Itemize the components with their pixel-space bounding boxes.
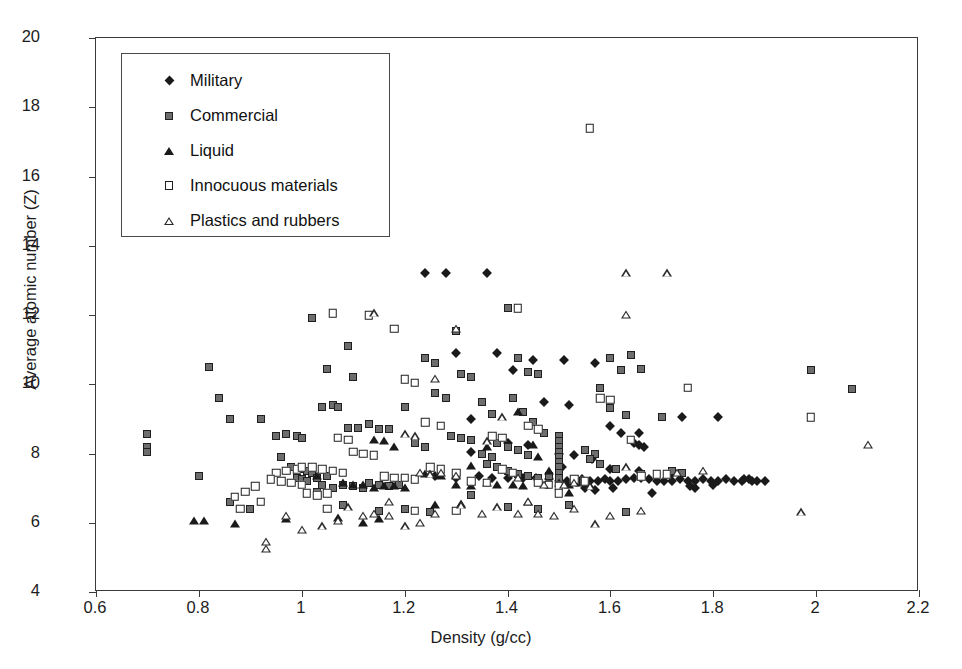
data-point-commercial bbox=[514, 446, 522, 454]
data-point-innocuous-materials bbox=[303, 489, 312, 498]
legend-item-label: Commercial bbox=[190, 106, 278, 125]
legend-item-liquid[interactable]: Liquid bbox=[122, 133, 389, 168]
x-tick-label: 1 bbox=[271, 598, 331, 617]
data-point-military bbox=[677, 412, 687, 422]
data-point-commercial bbox=[323, 365, 331, 373]
data-point-commercial bbox=[586, 455, 594, 463]
data-point-commercial bbox=[385, 425, 393, 433]
data-point-commercial bbox=[272, 432, 280, 440]
data-point-innocuous-materials bbox=[637, 472, 646, 481]
data-point-plastics-and-rubbers bbox=[451, 472, 461, 480]
data-point-plastics-and-rubbers bbox=[430, 375, 440, 383]
data-point-commercial bbox=[504, 443, 512, 451]
x-tick bbox=[96, 590, 97, 597]
data-point-military bbox=[590, 359, 600, 369]
data-point-commercial bbox=[637, 365, 645, 373]
data-point-plastics-and-rubbers bbox=[436, 468, 446, 476]
data-point-liquid bbox=[430, 501, 440, 509]
data-point-commercial bbox=[524, 368, 532, 376]
x-tick-label: 2 bbox=[785, 598, 845, 617]
data-point-plastics-and-rubbers bbox=[497, 413, 507, 421]
data-point-liquid bbox=[564, 489, 574, 497]
legend-item-plastics-and-rubbers[interactable]: Plastics and rubbers bbox=[122, 203, 389, 238]
data-point-commercial bbox=[246, 505, 254, 513]
data-point-innocuous-materials bbox=[606, 396, 615, 405]
data-point-liquid bbox=[369, 484, 379, 492]
data-point-commercial bbox=[226, 415, 234, 423]
data-point-military bbox=[482, 268, 492, 278]
data-point-plastics-and-rubbers bbox=[317, 522, 327, 530]
data-point-plastics-and-rubbers bbox=[430, 510, 440, 518]
data-point-liquid bbox=[189, 517, 199, 525]
data-point-innocuous-materials bbox=[318, 465, 327, 474]
data-point-plastics-and-rubbers bbox=[621, 311, 631, 319]
data-point-commercial bbox=[298, 434, 306, 442]
data-point-plastics-and-rubbers bbox=[605, 511, 615, 519]
data-point-innocuous-materials bbox=[298, 463, 307, 472]
data-point-liquid bbox=[338, 479, 348, 487]
data-point-military bbox=[634, 428, 644, 438]
data-point-plastics-and-rubbers bbox=[533, 510, 543, 518]
data-point-innocuous-materials bbox=[467, 477, 476, 486]
data-point-liquid bbox=[451, 480, 461, 488]
data-point-plastics-and-rubbers bbox=[415, 468, 425, 476]
data-point-liquid bbox=[466, 461, 476, 469]
data-point-military bbox=[647, 488, 657, 498]
data-point-plastics-and-rubbers bbox=[477, 510, 487, 518]
data-point-commercial bbox=[195, 472, 203, 480]
y-tick-label: 16 bbox=[4, 167, 40, 184]
data-point-commercial bbox=[606, 354, 614, 362]
x-tick bbox=[405, 590, 406, 597]
data-point-military bbox=[569, 450, 579, 460]
data-point-innocuous-materials bbox=[344, 435, 353, 444]
data-point-plastics-and-rubbers bbox=[281, 511, 291, 519]
data-point-commercial bbox=[354, 424, 362, 432]
data-point-military bbox=[559, 355, 569, 365]
data-point-commercial bbox=[277, 453, 285, 461]
data-point-commercial bbox=[431, 359, 439, 367]
data-point-commercial bbox=[483, 460, 491, 468]
data-point-innocuous-materials bbox=[652, 470, 661, 479]
data-point-commercial bbox=[596, 384, 604, 392]
data-point-commercial bbox=[143, 430, 151, 438]
data-point-commercial bbox=[807, 366, 815, 374]
data-point-liquid bbox=[492, 480, 502, 488]
y-tick bbox=[89, 454, 96, 455]
y-tick bbox=[89, 177, 96, 178]
data-point-innocuous-materials bbox=[282, 467, 291, 476]
data-point-innocuous-materials bbox=[323, 489, 332, 498]
triangle-filled-icon bbox=[160, 147, 178, 155]
data-point-innocuous-materials bbox=[596, 394, 605, 403]
data-point-plastics-and-rubbers bbox=[549, 511, 559, 519]
data-point-plastics-and-rubbers bbox=[621, 463, 631, 471]
data-point-innocuous-materials bbox=[807, 413, 816, 422]
data-point-plastics-and-rubbers bbox=[796, 508, 806, 516]
data-point-innocuous-materials bbox=[483, 479, 492, 488]
data-point-plastics-and-rubbers bbox=[333, 517, 343, 525]
data-point-plastics-and-rubbers bbox=[343, 503, 353, 511]
legend-item-innocuous-materials[interactable]: Innocuous materials bbox=[122, 168, 389, 203]
data-point-commercial bbox=[215, 394, 223, 402]
data-point-plastics-and-rubbers bbox=[384, 498, 394, 506]
legend-item-military[interactable]: Military bbox=[122, 63, 389, 98]
data-point-commercial bbox=[143, 448, 151, 456]
data-point-innocuous-materials bbox=[436, 422, 445, 431]
y-tick bbox=[89, 38, 96, 39]
data-point-commercial bbox=[581, 446, 589, 454]
y-tick-label: 6 bbox=[4, 513, 40, 530]
data-point-commercial bbox=[509, 394, 517, 402]
y-tick bbox=[89, 592, 96, 593]
data-point-commercial bbox=[467, 436, 475, 444]
data-point-plastics-and-rubbers bbox=[863, 440, 873, 448]
legend-item-commercial[interactable]: Commercial bbox=[122, 98, 389, 133]
data-point-plastics-and-rubbers bbox=[358, 511, 368, 519]
data-point-liquid bbox=[358, 480, 368, 488]
data-point-commercial bbox=[282, 430, 290, 438]
data-point-commercial bbox=[478, 398, 486, 406]
data-point-innocuous-materials bbox=[586, 124, 595, 133]
data-point-plastics-and-rubbers bbox=[539, 480, 549, 488]
data-point-plastics-and-rubbers bbox=[636, 506, 646, 514]
data-point-commercial bbox=[504, 503, 512, 511]
data-point-military bbox=[690, 483, 700, 493]
data-point-commercial bbox=[478, 450, 486, 458]
